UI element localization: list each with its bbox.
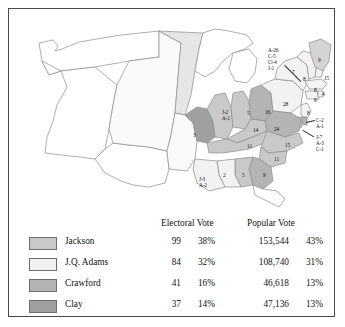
- column-header-electoral-vote: Electoral Vote: [161, 218, 214, 228]
- state-label-connecticut: 8: [314, 97, 317, 103]
- legend-swatch-clay: [29, 300, 57, 313]
- results-legend-table: Electoral Vote Popular Vote Jackson 99 3…: [9, 214, 334, 318]
- state-label-missouri: 3: [193, 132, 196, 138]
- popular-votes: 46,618: [223, 278, 289, 288]
- candidate-name: Jackson: [65, 236, 94, 246]
- leader-label-delaware-breakdown: C-2 A-1: [316, 117, 324, 129]
- map-figure-frame: 3 J-2 A-1 5 16 14 11 24 28 15 11 9 5 2 J…: [8, 8, 335, 317]
- leader-label-maryland-breakdown: J-7 A-3 C-1: [316, 134, 324, 152]
- electoral-percent: 32%: [185, 257, 215, 267]
- legend-swatch-crawford: [29, 279, 57, 292]
- electoral-percent: 14%: [185, 299, 215, 309]
- state-shape-california: [42, 61, 117, 159]
- table-row: J.Q. Adams 84 32% 108,740 31%: [9, 255, 334, 275]
- state-label-vermont: 8: [303, 76, 306, 82]
- state-label-virginia: 24: [274, 126, 279, 132]
- electoral-votes: 41: [137, 278, 181, 288]
- popular-percent: 13%: [293, 299, 323, 309]
- map-geography: [9, 9, 334, 214]
- state-label-georgia: 9: [263, 172, 266, 178]
- state-label-south-carolina: 11: [274, 156, 279, 162]
- electoral-votes: 37: [137, 299, 181, 309]
- legend-swatch-jackson: [29, 237, 57, 250]
- state-label-louisiana: J-3 A-2: [199, 176, 207, 188]
- electoral-votes: 99: [137, 236, 181, 246]
- electoral-votes: 84: [137, 257, 181, 267]
- popular-votes: 108,740: [223, 257, 289, 267]
- column-header-popular-vote: Popular Vote: [247, 218, 295, 228]
- state-label-illinois: J-2 A-1: [222, 109, 230, 121]
- popular-percent: 43%: [293, 236, 323, 246]
- popular-votes: 153,544: [223, 236, 289, 246]
- table-row: Crawford 41 16% 46,618 13%: [9, 276, 334, 296]
- state-shape-florida-territory: [253, 185, 285, 207]
- table-row: Clay 37 14% 47,136 13%: [9, 297, 334, 317]
- state-label-mississippi: 2: [223, 172, 226, 178]
- state-label-alabama: 5: [242, 172, 245, 178]
- electoral-percent: 38%: [185, 236, 215, 246]
- table-header-row: Electoral Vote Popular Vote: [9, 218, 334, 232]
- state-label-kentucky: 14: [253, 127, 258, 133]
- popular-percent: 13%: [293, 278, 323, 288]
- electoral-map: 3 J-2 A-1 5 16 14 11 24 28 15 11 9 5 2 J…: [9, 9, 334, 214]
- state-shape-michigan-mitt: [229, 49, 257, 83]
- candidate-name: Crawford: [65, 278, 101, 288]
- electoral-percent: 16%: [185, 278, 215, 288]
- state-label-maine: 9: [318, 57, 321, 63]
- candidate-name: Clay: [65, 299, 83, 309]
- candidate-name: J.Q. Adams: [65, 257, 108, 267]
- state-label-tennessee: 11: [247, 143, 252, 149]
- leader-label-new-england-breakdown: A-26 C-5 Cl-4 J-1: [268, 47, 278, 71]
- state-label-new-jersey: 8: [307, 110, 310, 116]
- table-row: Jackson 99 38% 153,544 43%: [9, 234, 334, 254]
- state-label-pennsylvania: 28: [283, 101, 288, 107]
- legend-swatch-adams: [29, 258, 57, 271]
- popular-percent: 31%: [293, 257, 323, 267]
- state-label-rhode-island: 4: [322, 91, 325, 97]
- state-label-new-hampshire: 15: [324, 75, 329, 81]
- state-label-ohio: 16: [265, 109, 270, 115]
- state-label-massachusetts: 8: [314, 87, 317, 93]
- state-label-indiana: 5: [247, 110, 250, 116]
- state-shape-southwest: [95, 143, 169, 187]
- state-label-north-carolina: 15: [285, 142, 290, 148]
- popular-votes: 47,136: [223, 299, 289, 309]
